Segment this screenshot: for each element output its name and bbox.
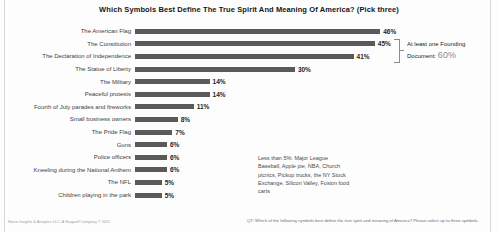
bar-row: Small business owners8% [2, 113, 498, 126]
founding-annotation: At least one Founding Document: 60% [407, 40, 485, 63]
bar [135, 167, 167, 172]
bar [135, 117, 178, 122]
bar [135, 67, 295, 72]
bar-container: 30% [135, 63, 311, 76]
founding-annotation-line1: At least one Founding [407, 40, 485, 49]
footer-question-text: Q7: Which of the following symbols best … [247, 218, 479, 223]
bar-container: 6% [135, 164, 179, 177]
value-label: 7% [175, 129, 184, 136]
bar-container: 6% [135, 138, 179, 151]
bar-row: Kneeling during the National Anthem6% [2, 164, 498, 177]
founding-bracket [394, 39, 400, 63]
bar-container: 6% [135, 151, 179, 164]
category-label: Peaceful protests [2, 91, 135, 97]
bar-container: 7% [135, 126, 185, 139]
bar [135, 104, 194, 109]
bar [135, 155, 167, 160]
bar-row: Guns6% [2, 138, 498, 151]
bar [135, 79, 210, 84]
bar-row: The Military14% [2, 75, 498, 88]
founding-bracket-tick [400, 50, 404, 51]
bar-container: 5% [135, 176, 174, 189]
bar [135, 54, 354, 59]
bar [135, 29, 380, 34]
bar [135, 180, 162, 185]
bar-row: Children playing in the park5% [2, 189, 498, 202]
category-label: The NFL [2, 179, 135, 185]
bar-container: 45% [135, 38, 391, 51]
bar-container: 41% [135, 50, 370, 63]
bar [135, 142, 167, 147]
bar [135, 41, 375, 46]
category-label: The Pride Flag [2, 129, 135, 135]
category-label: Fourth of July parades and fireworks [2, 104, 135, 110]
bar-container: 8% [135, 113, 190, 126]
founding-annotation-value: 60% [438, 50, 457, 60]
bar-row: The American Flag46% [2, 25, 498, 38]
category-label: Children playing in the park [2, 192, 135, 198]
value-label: 8% [181, 116, 190, 123]
bar-row: The Pride Flag7% [2, 126, 498, 139]
value-label: 5% [165, 192, 174, 199]
value-label: 6% [170, 166, 179, 173]
bar-row: The NFL5% [2, 176, 498, 189]
chart-title: Which Symbols Best Define The True Spiri… [0, 5, 498, 14]
category-label: The Statue of Liberty [2, 66, 135, 72]
bar [135, 130, 172, 135]
category-label: Guns [2, 142, 135, 148]
value-label: 6% [170, 154, 179, 161]
bar [135, 92, 210, 97]
category-label: The American Flag [2, 28, 135, 34]
value-label: 5% [165, 179, 174, 186]
footer-source-text: Harris Insights & Analytics LLC, A Stagw… [8, 220, 110, 224]
category-label: The Constitution [2, 41, 135, 47]
value-label: 41% [357, 53, 370, 60]
bar-row: The Statue of Liberty30% [2, 63, 498, 76]
category-label: Small business owners [2, 116, 135, 122]
value-label: 46% [383, 28, 396, 35]
bar [135, 193, 162, 198]
founding-annotation-line2: Document: 60% [407, 49, 485, 63]
category-label: The Military [2, 79, 135, 85]
bar-container: 11% [135, 101, 209, 114]
value-label: 45% [378, 40, 391, 47]
value-label: 14% [213, 78, 226, 85]
bar-container: 5% [135, 189, 174, 202]
category-label: Police officers [2, 154, 135, 160]
bar-container: 14% [135, 75, 226, 88]
value-label: 14% [213, 91, 226, 98]
category-label: Kneeling during the National Anthem [2, 167, 135, 173]
value-label: 30% [298, 66, 311, 73]
value-label: 6% [170, 141, 179, 148]
founding-annotation-prefix: Document: [407, 53, 438, 59]
bar-container: 14% [135, 88, 226, 101]
category-label: The Declaration of Independence [2, 53, 135, 59]
bar-container: 46% [135, 25, 396, 38]
bar-row: Police officers6% [2, 151, 498, 164]
less-than-5-annotation: Less than 5%: Major League Baseball, App… [258, 154, 350, 195]
bar-row: Peaceful protests14% [2, 88, 498, 101]
value-label: 11% [197, 103, 210, 110]
bar-row: Fourth of July parades and fireworks11% [2, 101, 498, 114]
chart-slide: Which Symbols Best Define The True Spiri… [0, 0, 498, 232]
